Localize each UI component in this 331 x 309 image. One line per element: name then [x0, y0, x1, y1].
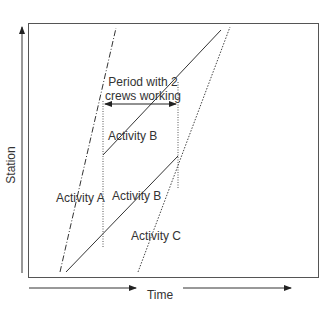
activity-a-label: Activity A [56, 191, 105, 205]
activity-b-upper-label: Activity B [108, 129, 157, 143]
time-axis-label: Time [147, 288, 174, 302]
period-annotation-line2: crews working [105, 89, 181, 103]
activity-b-lower-label: Activity B [112, 189, 161, 203]
activity-c-label: Activity C [131, 229, 181, 243]
period-annotation-line1: Period with 2 [108, 75, 178, 89]
linear-schedule-diagram: Station Time Period with 2 crews working… [0, 0, 331, 309]
station-axis-label: Station [4, 146, 18, 183]
